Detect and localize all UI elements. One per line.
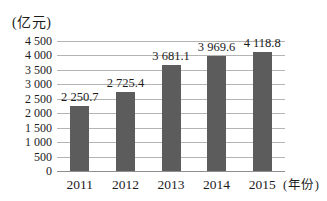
value-label-2011: 2 250.7 xyxy=(61,90,99,104)
x-axis-label: (年份) xyxy=(283,177,319,193)
y-tick-label: 1 500 xyxy=(4,121,52,135)
y-tick-label: 2 000 xyxy=(4,106,52,120)
x-tick-label-2011: 2011 xyxy=(67,177,94,193)
bar-2014 xyxy=(207,56,226,171)
bar-2012 xyxy=(116,92,135,171)
y-tick-label: 1 000 xyxy=(4,135,52,149)
y-axis-unit-label: (亿元) xyxy=(12,11,51,31)
bar-2011 xyxy=(70,106,89,171)
x-tick-label-2015: 2015 xyxy=(249,177,276,193)
value-label-2014: 3 969.6 xyxy=(198,40,236,54)
y-tick-label: 3 000 xyxy=(4,77,52,91)
value-label-2013: 3 681.1 xyxy=(152,49,190,63)
y-tick-label: 2 500 xyxy=(4,92,52,106)
value-label-2012: 2 725.4 xyxy=(107,76,145,90)
bar-2013 xyxy=(162,65,181,171)
y-tick-label: 3 500 xyxy=(4,63,52,77)
y-tick-label: 500 xyxy=(4,150,52,164)
bar-chart: (亿元) (年份) 05001 0001 5002 0002 5003 0003… xyxy=(0,0,327,201)
x-tick-label-2012: 2012 xyxy=(112,177,139,193)
x-tick-label-2013: 2013 xyxy=(158,177,185,193)
x-axis-baseline xyxy=(57,171,285,172)
y-tick-label: 0 xyxy=(4,164,52,178)
y-tick-label: 4 500 xyxy=(4,34,52,48)
bar-2015 xyxy=(253,52,272,171)
value-label-2015: 4 118.8 xyxy=(244,36,281,50)
x-tick-label-2014: 2014 xyxy=(203,177,230,193)
y-tick-label: 4 000 xyxy=(4,48,52,62)
